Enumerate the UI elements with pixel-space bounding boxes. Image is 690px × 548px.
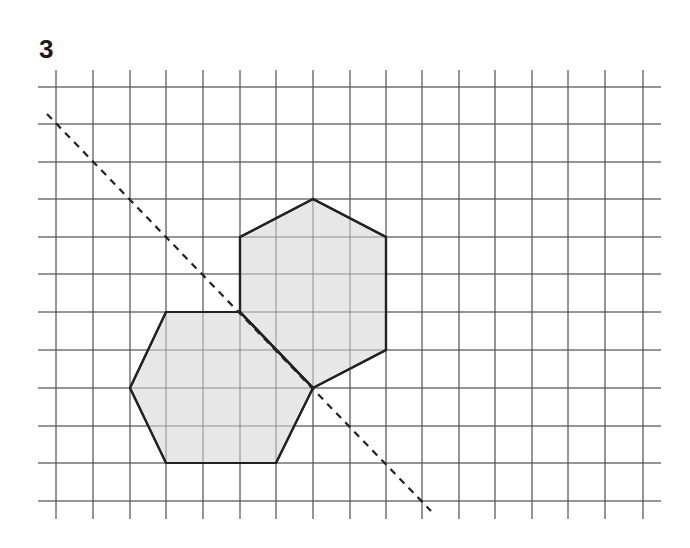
grid-diagram xyxy=(0,0,690,548)
